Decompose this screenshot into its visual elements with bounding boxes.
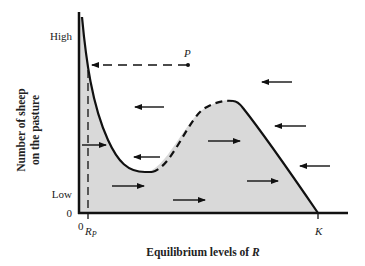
x-tick-k: K — [314, 225, 323, 237]
y-tick-low: Low — [52, 188, 72, 200]
y-axis-title-line2: on the pasture — [29, 95, 42, 165]
y-axis-title-line1: Number of sheep — [15, 88, 28, 171]
sheep-pasture-diagram: High Low 0 0 RP K P Number of sheep on t… — [0, 0, 365, 266]
x-tick-rp: RP — [84, 225, 97, 239]
shaded-region — [80, 17, 318, 213]
point-p-label: P — [183, 47, 191, 59]
y-origin-label: 0 — [67, 207, 73, 219]
x-axis-title: Equilibrium levels of R — [146, 246, 260, 259]
x-origin-label: 0 — [78, 220, 84, 232]
point-p — [186, 63, 190, 67]
y-tick-high: High — [50, 30, 73, 42]
